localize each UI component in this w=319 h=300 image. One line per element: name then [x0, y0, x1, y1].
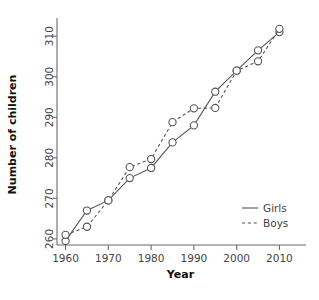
x-tick-label: 2000	[223, 252, 250, 264]
y-tick-label: 280	[43, 148, 55, 168]
series-girls	[62, 29, 283, 245]
data-point	[148, 155, 155, 162]
data-point	[190, 122, 197, 129]
x-tick-label: 2010	[266, 252, 293, 264]
x-tick-label: 1960	[52, 252, 79, 264]
data-point	[233, 67, 240, 74]
data-point	[169, 139, 176, 146]
x-axis-title: Year	[166, 268, 195, 281]
data-point	[83, 207, 90, 214]
data-point	[148, 164, 155, 171]
x-tick-label: 1980	[138, 252, 165, 264]
data-point	[126, 164, 133, 171]
series-line-girls	[66, 32, 280, 241]
legend-label-girls: Girls	[263, 202, 287, 214]
data-point	[212, 88, 219, 95]
legend-label-boys: Boys	[263, 217, 288, 229]
data-point	[276, 25, 283, 32]
y-tick-label: 290	[43, 107, 55, 127]
data-point	[83, 223, 90, 230]
data-point	[62, 231, 69, 238]
data-point	[169, 119, 176, 126]
x-tick-label: 1990	[181, 252, 208, 264]
line-chart: 2602702802903003101960197019801990200020…	[0, 0, 319, 300]
data-point	[190, 105, 197, 112]
y-tick-label: 260	[43, 229, 55, 249]
y-tick-label: 300	[43, 67, 55, 87]
data-point	[212, 104, 219, 111]
x-tick-label: 1970	[95, 252, 122, 264]
y-tick-label: 310	[43, 26, 55, 46]
data-point	[105, 197, 112, 204]
data-point	[126, 174, 133, 181]
data-point	[254, 47, 261, 54]
data-point	[254, 58, 261, 65]
y-tick-label: 270	[43, 188, 55, 208]
y-axis-title: Number of children	[6, 75, 19, 195]
chart-canvas: 2602702802903003101960197019801990200020…	[0, 0, 319, 300]
legend: GirlsBoys	[242, 202, 288, 229]
